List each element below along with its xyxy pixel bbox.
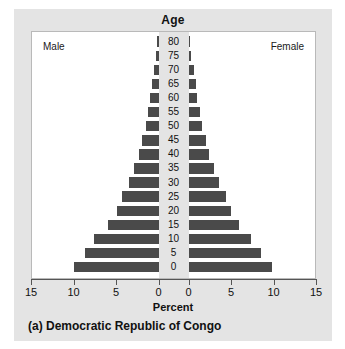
age-tick-label-55: 55	[159, 107, 189, 117]
xaxis-right-5-label: 5	[228, 286, 234, 298]
age-tick-label-70: 70	[159, 65, 189, 75]
xaxis-left-0-tick	[159, 279, 160, 285]
age-tick-label-75: 75	[159, 51, 189, 61]
age-tick-label-25: 25	[159, 192, 189, 202]
age-tick-label-80: 80	[159, 37, 189, 47]
xaxis-right-10-label: 10	[267, 286, 279, 298]
male-bar-age-20	[117, 206, 159, 216]
male-bar-age-40	[139, 149, 159, 159]
female-bar-age-30	[189, 177, 220, 187]
female-bar-age-45	[189, 135, 206, 145]
xaxis-right-0-tick	[189, 279, 190, 285]
age-tick-label-15: 15	[159, 220, 189, 230]
age-tick-label-20: 20	[159, 206, 189, 216]
female-bar-age-40	[189, 149, 209, 159]
female-bar-age-10	[189, 234, 252, 244]
female-bar-age-15	[189, 220, 239, 230]
xaxis-right-5-tick	[231, 279, 232, 285]
male-bar-age-15	[108, 220, 159, 230]
xaxis-right-15-tick	[316, 279, 317, 285]
male-bar-age-45	[142, 135, 158, 145]
age-tick-label-10: 10	[159, 234, 189, 244]
plot-inner: 05101520253035404550556065707580 Male Fe…	[32, 32, 315, 278]
male-bar-age-5	[85, 248, 158, 258]
xaxis-left-10-label: 10	[67, 286, 79, 298]
female-bar-age-75	[189, 51, 192, 61]
female-bar-age-25	[189, 191, 226, 201]
male-bar-age-35	[134, 163, 159, 173]
female-bar-age-5	[189, 248, 261, 258]
xaxis-right-10-tick	[274, 279, 275, 285]
female-bar-age-0	[189, 262, 272, 272]
female-bar-age-80	[189, 36, 191, 46]
age-tick-label-60: 60	[159, 93, 189, 103]
male-bar-age-25	[122, 191, 159, 201]
female-bar-age-50	[189, 121, 203, 131]
plot-panel: 05101520253035404550556065707580 Male Fe…	[31, 31, 316, 279]
xaxis-left-15-label: 15	[25, 286, 37, 298]
xaxis-left-5-tick	[116, 279, 117, 285]
population-pyramid-figure: Age 05101520253035404550556065707580 Mal…	[0, 0, 345, 349]
male-bar-age-0	[74, 262, 159, 272]
age-axis-title: Age	[14, 13, 332, 27]
xaxis-left-0-label: 0	[155, 286, 161, 298]
male-bar-age-50	[146, 121, 159, 131]
age-tick-label-50: 50	[159, 121, 189, 131]
age-tick-label-0: 0	[159, 262, 189, 272]
male-bar-age-55	[148, 107, 158, 117]
female-bar-age-35	[189, 163, 215, 173]
male-bar-age-30	[129, 177, 159, 187]
xaxis-left-10-tick	[74, 279, 75, 285]
xaxis-left-5-label: 5	[113, 286, 119, 298]
female-bar-age-20	[189, 206, 232, 216]
male-bar-age-60	[150, 93, 159, 103]
female-bar-age-70	[189, 65, 194, 75]
age-tick-label-5: 5	[159, 248, 189, 258]
female-bar-age-65	[189, 79, 196, 89]
age-tick-label-40: 40	[159, 149, 189, 159]
figure-caption: (a) Democratic Republic of Congo	[28, 319, 221, 333]
age-tick-label-30: 30	[159, 178, 189, 188]
age-tick-label-65: 65	[159, 79, 189, 89]
male-bar-age-10	[94, 234, 159, 244]
figure-card: Age 05101520253035404550556065707580 Mal…	[14, 9, 332, 341]
xaxis-left-15-tick	[31, 279, 32, 285]
male-bar-age-65	[152, 79, 159, 89]
age-tick-gutter: 05101520253035404550556065707580	[159, 32, 189, 278]
female-bar-age-55	[189, 107, 200, 117]
male-series-label: Male	[43, 41, 65, 52]
female-bar-age-60	[189, 93, 198, 103]
age-tick-label-35: 35	[159, 163, 189, 173]
xaxis-right-0-label: 0	[185, 286, 191, 298]
age-tick-label-45: 45	[159, 135, 189, 145]
female-series-label: Female	[271, 41, 304, 52]
xaxis-right-15-label: 15	[310, 286, 322, 298]
percent-axis-title: Percent	[14, 301, 332, 313]
